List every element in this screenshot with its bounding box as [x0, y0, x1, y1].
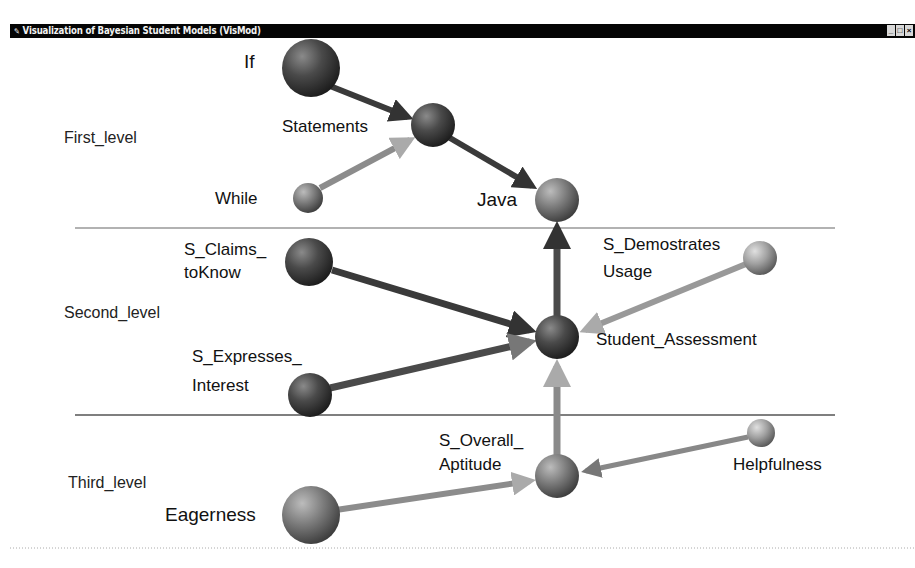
node-label-s-claims-line1: S_Claims_	[184, 240, 266, 259]
node-label-java: Java	[477, 190, 517, 209]
node-s-demostrates-usage[interactable]	[743, 241, 777, 275]
node-label-s-expresses-line2: Interest	[192, 376, 249, 395]
node-label-s-demostrates-line1: S_Demostrates	[603, 235, 720, 254]
node-student-assessment[interactable]	[535, 315, 579, 359]
node-label-s-expresses-line1: S_Expresses_	[192, 347, 302, 366]
node-if[interactable]	[282, 39, 340, 97]
node-label-while: While	[215, 189, 258, 208]
maximize-button[interactable]: □	[896, 25, 904, 36]
node-label-helpfulness: Helpfulness	[733, 455, 822, 474]
node-while[interactable]	[293, 183, 323, 213]
edge-if-statements	[330, 86, 408, 117]
close-button[interactable]: ×	[905, 25, 913, 36]
node-label-statements: Statements	[282, 117, 368, 136]
level-label-third: Third_level	[68, 473, 146, 492]
node-s-claims-toknow[interactable]	[285, 238, 333, 286]
node-helpfulness[interactable]	[747, 419, 775, 447]
node-label-s-overall-line1: S_Overall_	[439, 431, 523, 450]
node-s-overall-aptitude[interactable]	[535, 454, 579, 498]
app-icon: ✎	[14, 25, 21, 39]
edge-while-statements	[320, 140, 410, 188]
node-eagerness[interactable]	[282, 486, 340, 544]
level-label-first: First_level	[64, 128, 137, 147]
nodes	[282, 39, 777, 544]
edge-eagerness-overall	[336, 481, 530, 510]
edge-expresses-assessment	[330, 342, 530, 388]
node-label-s-demostrates-line2: Usage	[603, 262, 652, 281]
window-titlebar[interactable]: ✎Visualization of Bayesian Student Model…	[10, 24, 915, 38]
node-s-expresses-interest[interactable]	[288, 373, 332, 417]
edges	[320, 86, 748, 510]
node-label-eagerness: Eagerness	[165, 505, 256, 524]
window-controls: _ □ ×	[887, 25, 913, 37]
edge-claims-assessment	[332, 270, 530, 330]
node-label-student-assessment: Student_Assessment	[596, 330, 757, 349]
edge-helpfulness-overall	[586, 437, 748, 471]
minimize-button[interactable]: _	[887, 25, 895, 36]
node-java[interactable]	[535, 178, 579, 222]
edge-statements-java	[450, 138, 532, 186]
window-title: ✎Visualization of Bayesian Student Model…	[14, 24, 261, 39]
node-label-s-claims-line2: toKnow	[184, 263, 241, 282]
node-statements[interactable]	[411, 103, 455, 147]
node-label-if: If	[244, 52, 255, 71]
node-label-s-overall-line2: Aptitude	[439, 455, 501, 474]
level-label-second: Second_level	[64, 303, 160, 322]
